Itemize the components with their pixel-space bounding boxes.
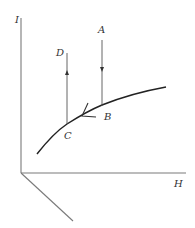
arrow-along-curve-icon: [82, 103, 96, 117]
point-label-a: A: [97, 24, 105, 35]
arrow-down-icon: [100, 67, 104, 72]
depth-axis: [21, 173, 73, 221]
axis-label-h: H: [173, 178, 183, 189]
point-label-b: B: [103, 111, 111, 122]
arrow-up-icon: [65, 70, 69, 75]
point-label-d: D: [55, 47, 64, 58]
point-label-c: C: [64, 130, 72, 141]
axis-label-i: I: [14, 14, 20, 25]
equilibrium-curve: [37, 87, 166, 154]
process-diagram: I H A B C D: [0, 0, 195, 228]
